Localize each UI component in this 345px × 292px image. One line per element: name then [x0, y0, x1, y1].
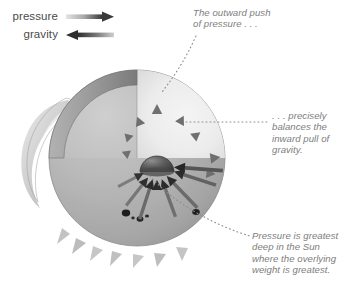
- sunspot: [192, 209, 200, 215]
- annotation-pressure-greatest: Pressure is greatest deep in the Sun whe…: [252, 230, 345, 276]
- legend-label-gravity: gravity: [6, 28, 58, 40]
- sun-pressure-gravity-figure: pressure gravity The outward push of pre…: [0, 0, 345, 292]
- annotation-balances: . . . precisely balances the inward pull…: [272, 110, 344, 156]
- legend-label-pressure: pressure: [6, 10, 58, 22]
- annotation-outward-push: The outward push of pressure . . .: [193, 7, 289, 30]
